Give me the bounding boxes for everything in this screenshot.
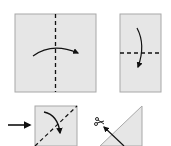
step-1 [15,14,96,92]
paper-rectangle [120,14,161,92]
step-4 [95,106,143,146]
step-2 [120,14,161,92]
step-3 [8,106,77,146]
paper-triangle [100,106,142,146]
scissors-icon [95,118,105,126]
origami-diagram [0,0,171,146]
